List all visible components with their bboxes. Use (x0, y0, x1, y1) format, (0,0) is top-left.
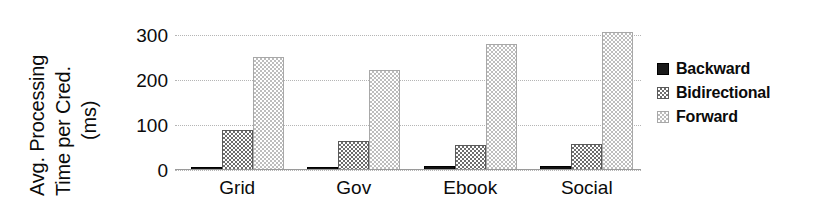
y-tick-label-0: 0 (105, 161, 168, 180)
light-gray-square-icon (657, 111, 669, 123)
legend-label-forward: Forward (676, 108, 738, 126)
legend-item-forward[interactable]: Forward (657, 106, 807, 128)
y-tick-label-300: 300 (105, 26, 168, 45)
bar-social-forward (602, 32, 633, 170)
legend-label-bidirectional: Bidirectional (676, 84, 770, 102)
x-category-label-gov: Gov (289, 178, 418, 197)
x-category-label-grid: Grid (173, 178, 302, 197)
bar-social-bidirectional (571, 144, 602, 170)
y-tick-label-100: 100 (105, 116, 168, 135)
bar-group-grid (191, 26, 284, 170)
legend-item-bidirectional[interactable]: Bidirectional (657, 82, 807, 104)
gridline-0 (175, 170, 641, 172)
bar-group-ebook (424, 26, 517, 170)
x-category-label-social: Social (522, 178, 651, 197)
legend-item-backward[interactable]: Backward (657, 58, 807, 80)
bar-ebook-bidirectional (455, 145, 486, 170)
bar-gov-forward (369, 70, 400, 170)
bar-ebook-forward (486, 44, 517, 170)
y-tick-label-200: 200 (105, 71, 168, 90)
y-axis-label: Avg. Processing Time per Cred. (ms) (0, 0, 120, 208)
bar-group-social (540, 26, 633, 170)
y-axis-label-line-1: Avg. Processing (26, 55, 49, 196)
dark-gray-square-icon (657, 87, 669, 99)
plot-area (175, 26, 641, 170)
bar-grid-forward (253, 57, 284, 170)
y-axis-label-line-2: Time per Cred. (52, 66, 75, 196)
bar-chart-figure: Avg. Processing Time per Cred. (ms) 0100… (0, 0, 814, 208)
y-axis-tick-labels: 0100200300 (105, 26, 168, 170)
legend-label-backward: Backward (676, 60, 750, 78)
black-square-icon (657, 63, 669, 75)
x-category-label-ebook: Ebook (406, 178, 535, 197)
chart-legend: BackwardBidirectionalForward (657, 58, 807, 130)
bar-group-gov (307, 26, 400, 170)
bar-gov-bidirectional (338, 141, 369, 170)
bar-grid-bidirectional (222, 130, 253, 171)
y-axis-label-line-3: (ms) (78, 101, 101, 140)
x-axis-baseline (175, 169, 641, 170)
